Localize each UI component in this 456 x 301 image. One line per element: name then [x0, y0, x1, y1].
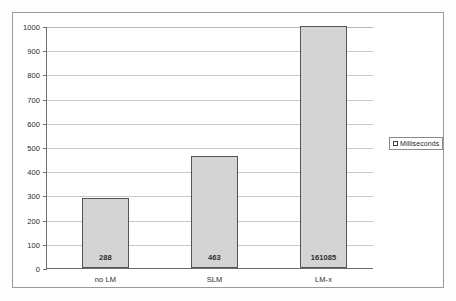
x-axis-label-lm-x: LM-x — [315, 275, 332, 284]
hollow-square-icon — [393, 141, 398, 146]
bar-slm[interactable]: 463 — [191, 156, 238, 268]
ytick-100 — [43, 245, 47, 246]
ytick-0 — [43, 269, 47, 270]
bar-value-label-no-lm: 288 — [83, 253, 128, 262]
ytick-600 — [43, 124, 47, 125]
y-axis-label-800: 800 — [27, 71, 40, 80]
y-axis-label-700: 700 — [27, 95, 40, 104]
y-axis-label-200: 200 — [27, 216, 40, 225]
ytick-1000 — [43, 27, 47, 28]
bar-value-label-lm-x: 161085 — [301, 253, 346, 262]
x-axis-label-slm: SLM — [207, 275, 223, 284]
y-axis-label-1000: 1000 — [23, 23, 40, 32]
y-axis-label-900: 900 — [27, 47, 40, 56]
ytick-300 — [43, 196, 47, 197]
y-axis-label-600: 600 — [27, 119, 40, 128]
bar-lm-x[interactable]: 161085 — [300, 26, 347, 268]
y-axis-label-400: 400 — [27, 168, 40, 177]
ytick-800 — [43, 75, 47, 76]
ytick-200 — [43, 221, 47, 222]
ytick-500 — [43, 148, 47, 149]
y-axis-label-0: 0 — [36, 265, 40, 274]
bar-no-lm[interactable]: 288 — [82, 198, 129, 268]
y-axis-label-500: 500 — [27, 144, 40, 153]
ytick-700 — [43, 100, 47, 101]
ytick-400 — [43, 172, 47, 173]
y-axis-label-100: 100 — [27, 240, 40, 249]
x-axis-label-no-lm: no LM — [95, 275, 116, 284]
ytick-900 — [43, 51, 47, 52]
plot-area: 1000 900 800 700 600 500 400 300 200 — [46, 27, 373, 269]
legend-entry-label: Milliseconds — [400, 140, 439, 147]
bar-value-label-slm: 463 — [192, 253, 237, 262]
chart-frame: 1000 900 800 700 600 500 400 300 200 — [12, 12, 444, 288]
y-axis-label-300: 300 — [27, 192, 40, 201]
chart-legend[interactable]: Milliseconds — [389, 137, 443, 150]
